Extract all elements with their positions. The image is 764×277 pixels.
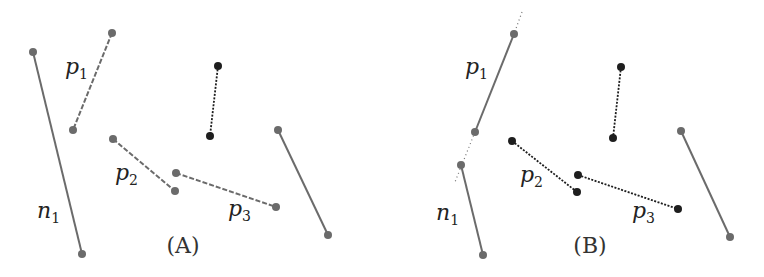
label-p3: p3 — [228, 196, 251, 224]
label-p1: p1 — [65, 54, 88, 82]
endpoint — [479, 251, 487, 259]
segments-figure: p1p2n1p3(A)p1n1p2p3(B) — [0, 0, 764, 277]
label-n1: n1 — [436, 200, 459, 228]
label-n1: n1 — [37, 198, 60, 226]
diagram-stage: p1p2n1p3(A)p1n1p2p3(B) (A) (B) — [0, 0, 764, 277]
panel-caption: (A) — [166, 233, 199, 258]
segment-p3 — [578, 175, 678, 209]
endpoint — [171, 187, 179, 195]
segment-r — [681, 131, 730, 237]
endpoint — [324, 231, 332, 239]
endpoint — [471, 128, 479, 136]
endpoint — [677, 127, 685, 135]
endpoint — [609, 134, 617, 142]
segment-n1 — [461, 165, 483, 255]
endpoint — [508, 137, 516, 145]
extension-line — [455, 132, 475, 182]
endpoint — [29, 48, 37, 56]
endpoint — [674, 205, 682, 213]
segment-p3 — [176, 173, 276, 207]
label-p2: p2 — [115, 160, 138, 188]
endpoint — [206, 132, 214, 140]
endpoint — [108, 29, 116, 37]
endpoint — [574, 171, 582, 179]
endpoint — [109, 135, 117, 143]
endpoint — [726, 233, 734, 241]
segment-q — [210, 66, 218, 136]
endpoint — [457, 161, 465, 169]
endpoint — [573, 188, 581, 196]
segment-r — [278, 130, 328, 235]
label-p3: p3 — [632, 198, 655, 226]
panel-caption: (B) — [573, 233, 606, 258]
endpoint — [69, 126, 77, 134]
label-p1: p1 — [465, 54, 488, 82]
endpoint — [172, 169, 180, 177]
endpoint — [214, 62, 222, 70]
segment-p1 — [475, 34, 514, 132]
segment-q — [613, 67, 621, 138]
endpoint — [272, 203, 280, 211]
endpoint — [78, 250, 86, 258]
endpoint — [274, 126, 282, 134]
endpoint — [510, 30, 518, 38]
label-p2: p2 — [520, 162, 543, 190]
endpoint — [617, 63, 625, 71]
